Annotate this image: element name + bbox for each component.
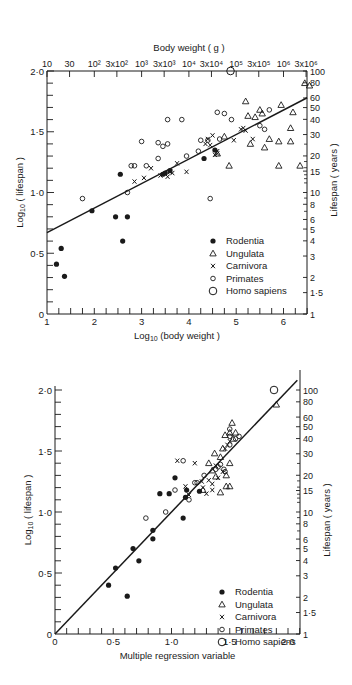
- bottom-tick-label: 6: [281, 316, 286, 327]
- right-tick-label: 1: [310, 310, 315, 320]
- top-tick-label: 3x10²: [106, 59, 129, 69]
- figure-lifespan-vs-body-weight: 00·51·01·52·0123456100806050403020151086…: [0, 0, 352, 350]
- right-tick-label: 1·5: [303, 608, 316, 618]
- top-tick-label: 10: [42, 59, 52, 69]
- small-circle-marker-icon: [173, 488, 178, 493]
- small-circle-marker-icon: [132, 163, 137, 168]
- legend-label: Rodentia: [226, 235, 265, 246]
- right-tick-label: 20: [310, 151, 320, 161]
- top-tick-label: 3x10³: [153, 59, 176, 69]
- filled-circle-marker-icon: [201, 156, 206, 161]
- right-tick-label: 3: [310, 252, 315, 262]
- right-tick-label: 50: [310, 103, 320, 113]
- legend-label: Ungulata: [226, 248, 265, 259]
- left-axis-title: Log10 ( lifespan ): [22, 475, 34, 546]
- triangle-marker-icon: [210, 250, 216, 256]
- right-tick-label: 30: [303, 449, 313, 459]
- legend-label: Primates: [226, 273, 264, 284]
- legend: RodentiaUngulataCarnivoraPrimatesHomo sa…: [209, 235, 287, 296]
- x-marker-icon: [208, 143, 212, 147]
- filled-circle-marker-icon: [125, 214, 130, 219]
- small-circle-marker-icon: [211, 276, 216, 281]
- right-tick-label: 10: [310, 188, 320, 198]
- bottom-axis-title: Multiple regression variable: [120, 650, 236, 661]
- bottom-tick-label: 3: [139, 316, 144, 327]
- small-circle-marker-icon: [208, 196, 213, 201]
- small-circle-marker-icon: [180, 117, 185, 122]
- legend-label: Ungulata: [235, 599, 274, 610]
- right-tick-label: 6: [310, 215, 315, 225]
- triangle-marker-icon: [219, 601, 225, 607]
- right-tick-label: 1·5: [310, 288, 323, 298]
- triangle-marker-icon: [206, 460, 212, 466]
- bottom-tick-label: 1·0: [165, 636, 179, 647]
- small-circle-marker-icon: [165, 117, 170, 122]
- legend-label: Primates: [235, 624, 273, 635]
- right-tick-label: 8: [310, 200, 315, 210]
- legend-item: Rodentia: [210, 235, 264, 246]
- bottom-tick-label: 4: [186, 316, 191, 327]
- triangle-marker-icon: [287, 125, 293, 131]
- small-circle-marker-icon: [215, 110, 220, 115]
- right-tick-label: 6: [303, 535, 308, 545]
- bottom-tick-label: 5: [234, 316, 239, 327]
- left-tick-label: 0·5: [38, 568, 52, 579]
- left-tick-label: 2·0: [38, 385, 52, 396]
- x-marker-icon: [133, 179, 137, 183]
- right-axis-title: Lifespan ( years ): [321, 483, 332, 556]
- triangle-marker-icon: [217, 454, 223, 460]
- x-marker-icon: [210, 488, 214, 492]
- large-circle-marker-icon: [270, 386, 278, 394]
- x-marker-icon: [210, 482, 214, 486]
- filled-circle-marker-icon: [59, 246, 64, 251]
- x-marker-icon: [175, 459, 179, 463]
- x-marker-icon: [193, 461, 197, 465]
- left-tick-label: 1·5: [38, 446, 52, 457]
- right-tick-label: 5: [303, 544, 308, 554]
- triangle-marker-icon: [266, 136, 272, 142]
- triangle-marker-icon: [227, 460, 233, 466]
- right-tick-label: 2: [310, 273, 315, 283]
- left-tick-label: 0·5: [30, 248, 44, 259]
- triangle-marker-icon: [226, 162, 232, 168]
- right-tick-label: 3: [303, 571, 308, 581]
- small-circle-marker-icon: [227, 443, 232, 448]
- filled-circle-marker-icon: [113, 566, 118, 571]
- left-tick-label: 1·0: [30, 187, 44, 198]
- legend-item: Carnivora: [220, 611, 277, 622]
- small-circle-marker-icon: [222, 111, 227, 116]
- small-circle-marker-icon: [198, 138, 203, 143]
- axes: 00·51·01·52·000·51·01·52·010080605040302…: [22, 370, 332, 661]
- top-tick-label: 10⁴: [182, 59, 196, 69]
- triangle-marker-icon: [261, 144, 267, 150]
- filled-circle-marker-icon: [130, 546, 135, 551]
- large-circle-marker-icon: [209, 287, 217, 295]
- filled-circle-marker-icon: [150, 536, 155, 541]
- right-tick-label: 60: [303, 413, 313, 423]
- bottom-tick-label: 0: [52, 636, 57, 647]
- triangle-marker-icon: [217, 489, 223, 495]
- right-tick-label: 100: [303, 386, 318, 396]
- filled-circle-marker-icon: [136, 558, 141, 563]
- x-marker-icon: [142, 176, 146, 180]
- top-tick-label: 10³: [135, 59, 148, 69]
- legend-item: Carnivora: [211, 260, 268, 271]
- data-points: [106, 386, 280, 599]
- triangle-marker-icon: [287, 138, 293, 144]
- small-circle-marker-icon: [165, 142, 170, 147]
- x-marker-icon: [211, 264, 215, 268]
- legend-item: Ungulata: [210, 248, 265, 259]
- axes: 00·51·01·52·0123456100806050403020151086…: [14, 42, 339, 342]
- legend-label: Rodentia: [235, 586, 274, 597]
- legend-item: Primates: [211, 273, 264, 284]
- small-circle-marker-icon: [139, 139, 144, 144]
- left-tick-label: 1·0: [38, 507, 52, 518]
- triangle-marker-icon: [252, 114, 258, 120]
- x-marker-icon: [232, 138, 236, 142]
- small-circle-marker-icon: [267, 108, 272, 113]
- x-marker-icon: [251, 137, 255, 141]
- right-tick-label: 2: [303, 593, 308, 603]
- right-tick-label: 80: [310, 78, 320, 88]
- filled-circle-marker-icon: [163, 170, 168, 175]
- small-circle-marker-icon: [229, 117, 234, 122]
